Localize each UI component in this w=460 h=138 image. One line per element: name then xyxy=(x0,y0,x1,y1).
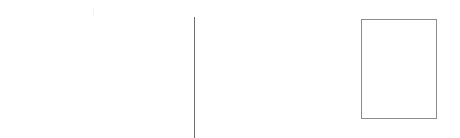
faint-mark xyxy=(93,8,94,16)
vertical-divider xyxy=(194,17,195,138)
empty-rectangle-frame xyxy=(361,19,437,119)
